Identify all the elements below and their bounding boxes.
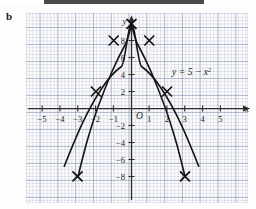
x-tick-label: −4 <box>55 114 65 124</box>
x-tick-label: 1 <box>147 114 151 124</box>
x-tick-label: −5 <box>38 114 47 124</box>
graph-plot: −5 −4 −3 −2 −1 1 2 3 4 5 8 6 4 2 −2 −4 −… <box>0 0 256 209</box>
y-tick-label: −6 <box>116 155 125 165</box>
y-tick-label: −4 <box>116 138 126 148</box>
data-point-marker <box>73 172 82 181</box>
equation-minus: − <box>195 67 201 77</box>
y-tick-label: −8 <box>116 172 125 182</box>
equation-rhs-a: 5 <box>188 67 193 77</box>
y-tick-label: 2 <box>121 87 125 97</box>
x-tick-label: 4 <box>200 114 205 124</box>
equation-lhs: y <box>171 67 177 77</box>
x-tick-label: 5 <box>218 114 222 124</box>
y-tick-label: 8 <box>121 36 125 46</box>
y-tick-label: 4 <box>121 70 126 80</box>
x-tick-label: −3 <box>73 114 82 124</box>
equation-equals: = <box>179 67 185 77</box>
equation-label: y=5−x2 <box>171 66 211 77</box>
data-point-marker <box>145 36 154 45</box>
y-axis-label: y <box>122 16 127 26</box>
y-axis <box>128 16 134 201</box>
x-axis-label: x <box>244 104 249 114</box>
figure-root: b <box>0 0 256 209</box>
y-tick-label: −2 <box>116 121 125 131</box>
equation-exponent: 2 <box>208 66 211 73</box>
x-tick-labels: −5 −4 −3 −2 −1 1 2 3 4 5 <box>38 114 223 124</box>
origin-label: O <box>136 111 143 121</box>
data-point-marker <box>109 36 118 45</box>
x-tick-label: 3 <box>183 114 187 124</box>
